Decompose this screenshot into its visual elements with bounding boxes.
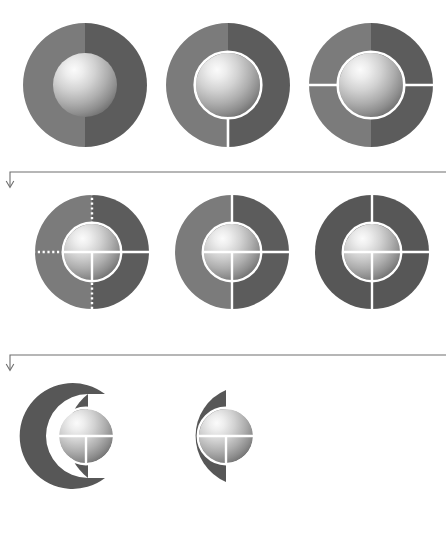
divider-1 (6, 172, 446, 188)
divider-2 (6, 355, 446, 371)
sphere-r1c2 (196, 53, 260, 117)
row-2 (33, 193, 432, 311)
panel-r2c1 (33, 193, 152, 311)
row-1 (23, 23, 434, 148)
panel-r1c2 (166, 23, 290, 148)
panel-r3c2 (196, 390, 255, 482)
panel-r1c3 (308, 23, 434, 147)
panel-r2c2 (175, 193, 292, 311)
sphere-sector-diagram (0, 0, 446, 540)
panel-r2c3 (315, 193, 432, 311)
panel-r3c1 (20, 383, 115, 489)
diagram-canvas: Stepwise construction of spherical secto… (0, 0, 446, 540)
sphere-r1c1 (53, 53, 117, 117)
sphere-r1c3 (339, 53, 403, 117)
panel-r1c1 (23, 23, 147, 147)
row-3 (20, 383, 255, 489)
